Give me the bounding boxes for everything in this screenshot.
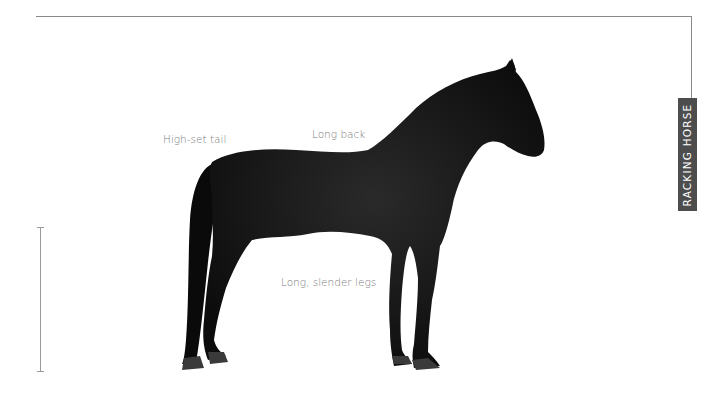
hoof-rear-right: [208, 352, 228, 364]
hoof-front-right: [392, 356, 412, 364]
annotation-long-back: Long back: [312, 128, 365, 140]
annotation-long-slender-legs: Long, slender legs: [281, 276, 376, 288]
annotation-high-set-tail: High-set tail: [163, 133, 226, 145]
horse-body: [203, 60, 544, 368]
hoof-rear-left: [182, 356, 204, 370]
horse-illustration: [0, 0, 725, 398]
